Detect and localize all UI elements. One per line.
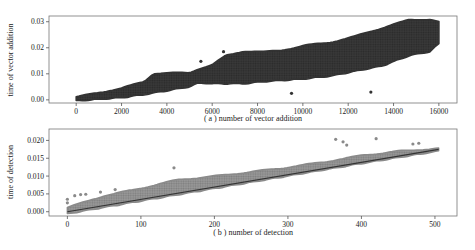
outlier-point [417,142,420,145]
chart-a: 0.000.010.020.03 02000400060008000100001… [6,16,457,123]
outlier-point [290,92,293,95]
y-tick-label: 0.000 [27,207,44,216]
chart-a-y-axis: 0.000.010.020.03 [31,17,49,104]
outlier-point [369,90,372,93]
outlier-point [73,194,76,197]
chart-a-xlabel: ( a ) number of vector addition [204,114,302,123]
y-tick-label: 0.015 [27,154,44,163]
x-tick-label: 500 [429,220,441,229]
y-tick-label: 0.01 [31,69,44,78]
outlier-point [172,166,175,169]
x-tick-label: 12000 [339,107,358,116]
y-tick-label: 0.03 [31,17,44,26]
outlier-point [99,191,102,194]
x-tick-label: 2000 [114,107,129,116]
outlier-point [66,201,69,204]
y-tick-label: 0.005 [27,189,44,198]
x-tick-label: 14000 [384,107,403,116]
outlier-point [79,193,82,196]
y-tick-label: 0.00 [31,95,44,104]
outlier-point [84,193,87,196]
chart-b-ylabel: time of detection [6,145,15,199]
outlier-point [222,50,225,53]
x-tick-label: 0 [66,220,70,229]
x-tick-label: 400 [356,220,368,229]
y-tick-label: 0.010 [27,172,44,181]
outlier-point [334,138,337,141]
chart-b-xlabel: ( b ) number of detection [213,228,293,237]
outlier-point [345,143,348,146]
chart-b: 0.0000.0050.0100.0150.020 01002003004005… [6,129,457,237]
chart-b-y-axis: 0.0000.0050.0100.0150.020 [27,136,49,216]
outlier-point [66,198,69,201]
y-tick-label: 0.020 [27,136,44,145]
figure: 0.000.010.020.03 02000400060008000100001… [0,0,475,250]
outlier-point [375,137,378,140]
x-tick-label: 0 [74,107,78,116]
outlier-point [341,140,344,143]
chart-a-ylabel: time of vector addition [6,23,15,96]
x-tick-label: 100 [135,220,147,229]
outlier-point [114,188,117,191]
x-tick-label: 16000 [429,107,448,116]
y-tick-label: 0.02 [31,43,44,52]
outlier-point [199,60,202,63]
x-tick-label: 4000 [159,107,174,116]
outlier-point [411,142,414,145]
